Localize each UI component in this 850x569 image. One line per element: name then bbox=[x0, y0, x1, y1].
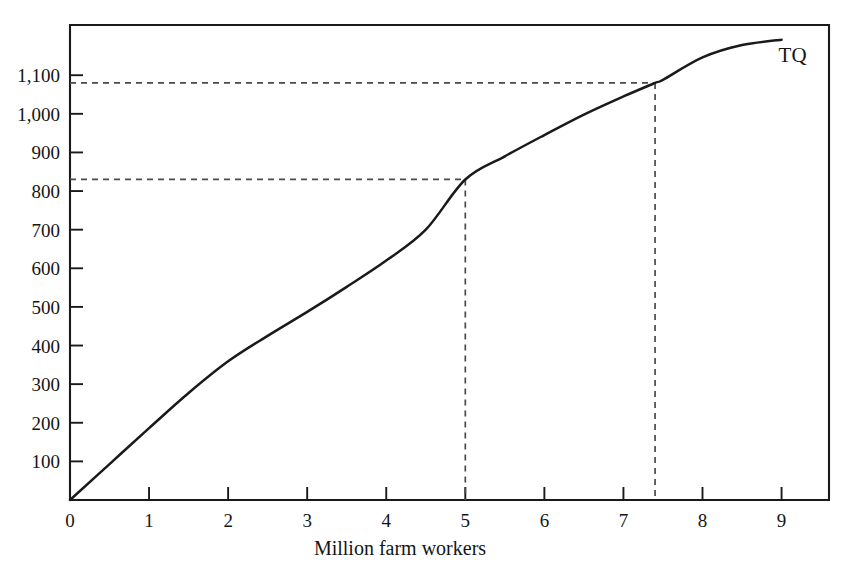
x-tick-label: 2 bbox=[223, 510, 233, 531]
tq-curve-path bbox=[70, 40, 782, 500]
x-tick-label: 5 bbox=[461, 510, 471, 531]
annotation-guide-lines bbox=[70, 83, 655, 500]
x-tick-label: 6 bbox=[540, 510, 550, 531]
y-tick-label: 900 bbox=[32, 142, 61, 163]
y-tick-label: 800 bbox=[32, 181, 61, 202]
y-tick-label: 700 bbox=[32, 220, 61, 241]
x-tick-label: 3 bbox=[302, 510, 312, 531]
plot-frame bbox=[70, 25, 829, 500]
total-product-chart: 1002003004005006007008009001,0001,100 01… bbox=[0, 0, 850, 569]
y-tick-label: 200 bbox=[32, 413, 61, 434]
y-axis-ticks bbox=[70, 75, 83, 461]
y-tick-label: 1,100 bbox=[17, 65, 60, 86]
tq-curve-label: TQ bbox=[779, 43, 807, 67]
x-tick-label: 1 bbox=[144, 510, 154, 531]
y-tick-label: 500 bbox=[32, 297, 61, 318]
y-tick-label: 400 bbox=[32, 336, 61, 357]
y-tick-label: 1,000 bbox=[17, 104, 60, 125]
y-tick-label: 300 bbox=[32, 374, 61, 395]
x-tick-label: 4 bbox=[382, 510, 392, 531]
y-tick-label: 100 bbox=[32, 451, 61, 472]
x-axis-title: Million farm workers bbox=[314, 537, 486, 559]
chart-page: 1002003004005006007008009001,0001,100 01… bbox=[0, 0, 850, 569]
y-axis-tick-labels: 1002003004005006007008009001,0001,100 bbox=[17, 65, 60, 472]
tq-curve-group bbox=[70, 40, 782, 500]
x-tick-label: 9 bbox=[777, 510, 787, 531]
y-tick-label: 600 bbox=[32, 258, 61, 279]
x-tick-label: 7 bbox=[619, 510, 629, 531]
x-tick-label: 8 bbox=[698, 510, 708, 531]
x-axis-tick-labels: 0123456789 bbox=[65, 510, 786, 531]
x-tick-label: 0 bbox=[65, 510, 75, 531]
